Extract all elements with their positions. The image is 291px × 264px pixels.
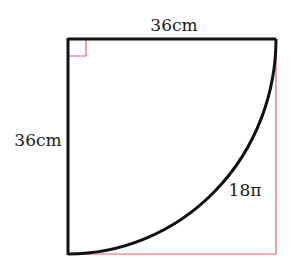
arc-length-label: 18π (229, 180, 262, 200)
top-side-label: 36cm (150, 15, 197, 35)
left-side-label: 36cm (14, 130, 61, 150)
quarter-arc (68, 39, 276, 254)
right-angle-marker (68, 39, 86, 56)
diagram-canvas: 36cm 36cm 18π (0, 0, 291, 264)
